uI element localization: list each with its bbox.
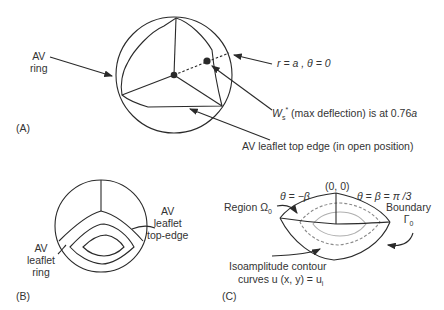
- max-deflection-label: Ws* (max deflection) is at 0.76a: [272, 104, 417, 124]
- theta-neg-label: θ = −β: [280, 190, 310, 202]
- av-ring-label-line2: ring: [30, 62, 48, 74]
- iso-subscript: i: [322, 280, 324, 287]
- ws-symbol: W: [272, 107, 282, 119]
- av-leaflet-top-edge-label: AV leaflet top-edge: [147, 205, 188, 241]
- region-subscript: 0: [268, 208, 272, 215]
- panel-b-tag: (B): [16, 290, 30, 302]
- ws-a: a: [411, 107, 417, 119]
- region-text: Region Ω: [224, 201, 268, 213]
- panel-a-figure: [50, 17, 272, 140]
- edge-label-line1: AV: [147, 205, 188, 217]
- edge-label-line3: top-edge: [147, 229, 188, 241]
- ring-label-line1: AV: [27, 242, 55, 254]
- panel-a-tag: (A): [16, 122, 30, 134]
- panel-c-tag: (C): [222, 290, 237, 302]
- leaflet-edge-label: AV leaflet top edge (in open position): [242, 140, 413, 152]
- r-theta-label: r = a , θ = 0: [277, 57, 331, 69]
- region-label: Region Ω0: [224, 201, 272, 218]
- panel-b-figure: [55, 180, 155, 272]
- av-ring-label-line1: AV: [30, 50, 48, 62]
- edge-label-line2: leaflet: [147, 217, 188, 229]
- boundary-text: Boundary: [386, 201, 431, 213]
- av-ring-label: AV ring: [30, 50, 48, 74]
- ring-label-line3: ring: [27, 266, 55, 278]
- isoamplitude-label-line2: curves u (x, y) = ui: [238, 273, 323, 290]
- boundary-subscript: 0: [409, 220, 413, 227]
- center-point: [171, 72, 178, 79]
- max-deflection-point: [203, 57, 210, 64]
- ws-text: (max deflection) is at 0.76: [288, 107, 411, 119]
- iso-text: curves u (x, y) = u: [238, 273, 322, 285]
- boundary-label: Boundary Γ0: [386, 201, 431, 230]
- ws-subscript: s: [282, 114, 286, 121]
- origin-label: (0, 0): [325, 180, 350, 192]
- isoamplitude-label-line1: Isoamplitude contour: [229, 260, 326, 272]
- av-leaflet-ring-label: AV leaflet ring: [27, 242, 55, 278]
- diagram-canvas: [0, 0, 444, 310]
- ring-label-line2: leaflet: [27, 254, 55, 266]
